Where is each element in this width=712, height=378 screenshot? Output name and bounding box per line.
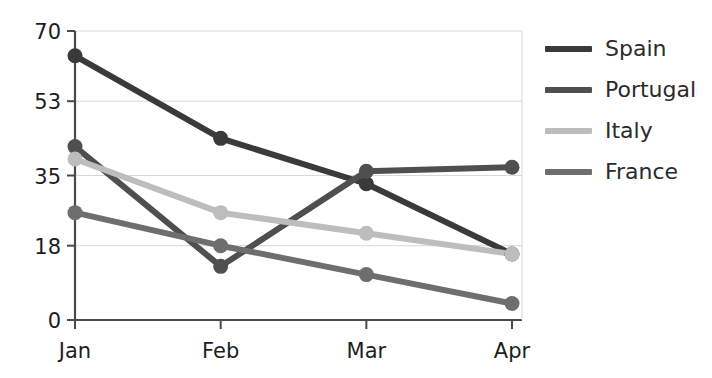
y-tick-label-18: 18 bbox=[34, 235, 61, 259]
x-axis bbox=[75, 31, 522, 329]
data-point-france-apr[interactable] bbox=[505, 296, 520, 311]
legend-label-italy: Italy bbox=[605, 120, 653, 142]
data-point-portugal-feb[interactable] bbox=[213, 259, 228, 274]
x-tick-label-mar: Mar bbox=[347, 339, 387, 363]
gridlines bbox=[75, 31, 522, 320]
data-point-spain-jan[interactable] bbox=[68, 48, 83, 63]
legend-item-portugal[interactable]: Portugal bbox=[545, 69, 705, 110]
series-line-france[interactable] bbox=[75, 213, 512, 304]
data-point-france-mar[interactable] bbox=[359, 267, 374, 282]
y-tick-label-35: 35 bbox=[34, 165, 61, 189]
y-tick-label-70: 70 bbox=[34, 20, 61, 44]
x-tick-label-feb: Feb bbox=[202, 339, 239, 363]
data-point-portugal-mar[interactable] bbox=[359, 164, 374, 179]
x-tick-label-jan: Jan bbox=[57, 339, 91, 363]
y-tick-labels: 018355370 bbox=[34, 20, 61, 333]
data-point-portugal-apr[interactable] bbox=[505, 160, 520, 175]
data-point-france-feb[interactable] bbox=[213, 238, 228, 253]
legend-label-france: France bbox=[605, 161, 678, 183]
data-point-france-jan[interactable] bbox=[68, 205, 83, 220]
data-point-italy-mar[interactable] bbox=[359, 226, 374, 241]
x-tick-label-apr: Apr bbox=[494, 339, 531, 363]
y-axis bbox=[67, 31, 75, 320]
legend-swatch-portugal bbox=[545, 87, 592, 93]
data-point-italy-feb[interactable] bbox=[213, 205, 228, 220]
legend-swatch-france bbox=[545, 169, 592, 175]
data-point-italy-jan[interactable] bbox=[68, 151, 83, 166]
data-point-italy-apr[interactable] bbox=[505, 246, 520, 261]
legend-swatch-italy bbox=[545, 128, 592, 134]
y-tick-label-0: 0 bbox=[48, 309, 61, 333]
line-chart: 018355370 JanFebMarApr Spain Portugal It… bbox=[0, 0, 712, 378]
series-line-italy[interactable] bbox=[75, 159, 512, 254]
data-series-group bbox=[68, 48, 520, 311]
data-point-spain-feb[interactable] bbox=[213, 131, 228, 146]
legend-label-portugal: Portugal bbox=[605, 79, 696, 101]
legend-label-spain: Spain bbox=[605, 38, 666, 60]
y-tick-label-53: 53 bbox=[34, 90, 61, 114]
legend-swatch-spain bbox=[545, 46, 592, 52]
legend-item-spain[interactable]: Spain bbox=[545, 28, 705, 69]
x-tick-labels: JanFebMarApr bbox=[57, 339, 531, 363]
chart-legend: Spain Portugal Italy France bbox=[545, 28, 705, 192]
legend-item-france[interactable]: France bbox=[545, 151, 705, 192]
series-line-portugal[interactable] bbox=[75, 147, 512, 267]
legend-item-italy[interactable]: Italy bbox=[545, 110, 705, 151]
